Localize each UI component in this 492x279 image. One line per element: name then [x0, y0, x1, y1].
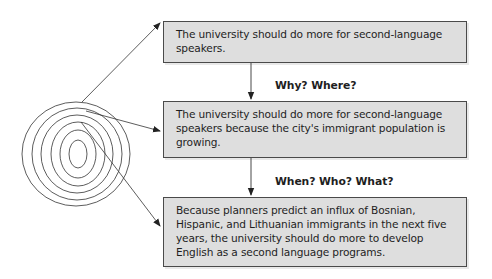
- concentric-ellipses-icon: [22, 102, 130, 206]
- arrow-to-box-1: [82, 23, 160, 102]
- statement-text-narrowed: The university should do more for second…: [176, 108, 445, 148]
- statement-text-specific: Because planners predict an influx of Bo…: [176, 204, 446, 258]
- statement-box-narrowed: The university should do more for second…: [163, 101, 467, 158]
- arrow-to-box-3: [81, 122, 160, 226]
- connector-label-why-where: Why? Where?: [275, 79, 356, 92]
- statement-box-general: The university should do more for second…: [163, 21, 467, 63]
- statement-text-general: The university should do more for second…: [176, 28, 442, 54]
- connector-label-when-who-what: When? Who? What?: [275, 175, 393, 188]
- statement-box-specific: Because planners predict an influx of Bo…: [163, 197, 467, 267]
